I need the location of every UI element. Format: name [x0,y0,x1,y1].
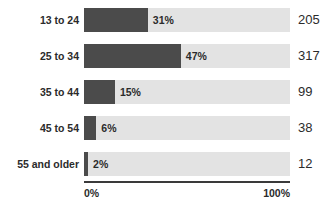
x-axis-tick-max: 100% [263,185,290,201]
row-bar-fill [84,44,181,68]
row-bar-fill [84,80,115,104]
row-count-value: 38 [298,116,312,140]
chart-plot-area: 13 to 24 31% 205 25 to 34 47% 317 35 to … [0,0,333,180]
row-count-value: 317 [298,44,320,68]
row-track: 15% [84,80,290,104]
row-count-value: 99 [298,80,312,104]
horizontal-bar-chart: 13 to 24 31% 205 25 to 34 47% 317 35 to … [0,0,333,204]
row-count-value: 12 [298,152,312,176]
row-category-label: 13 to 24 [40,8,79,32]
row-bar-fill [84,8,148,32]
row-percent-label: 31% [153,8,174,32]
chart-row: 35 to 44 15% 99 [0,80,333,104]
row-category-label: 55 and older [17,152,79,176]
row-category-label: 25 to 34 [40,44,79,68]
row-category-label: 35 to 44 [40,80,79,104]
row-percent-label: 15% [120,80,141,104]
chart-row: 25 to 34 47% 317 [0,44,333,68]
row-percent-label: 2% [93,152,108,176]
row-track: 2% [84,152,290,176]
row-bar-fill [84,152,88,176]
row-percent-label: 6% [101,116,116,140]
chart-row: 13 to 24 31% 205 [0,8,333,32]
row-track: 47% [84,44,290,68]
row-percent-label: 47% [186,44,207,68]
row-count-value: 205 [298,8,320,32]
row-bar-fill [84,116,96,140]
row-track: 6% [84,116,290,140]
x-axis-tick-min: 0% [84,185,99,201]
chart-row: 55 and older 2% 12 [0,152,333,176]
x-axis-tick-labels: 0% 100% [84,185,290,201]
row-category-label: 45 to 54 [40,116,79,140]
x-axis-line [84,181,290,183]
row-track: 31% [84,8,290,32]
chart-row: 45 to 54 6% 38 [0,116,333,140]
